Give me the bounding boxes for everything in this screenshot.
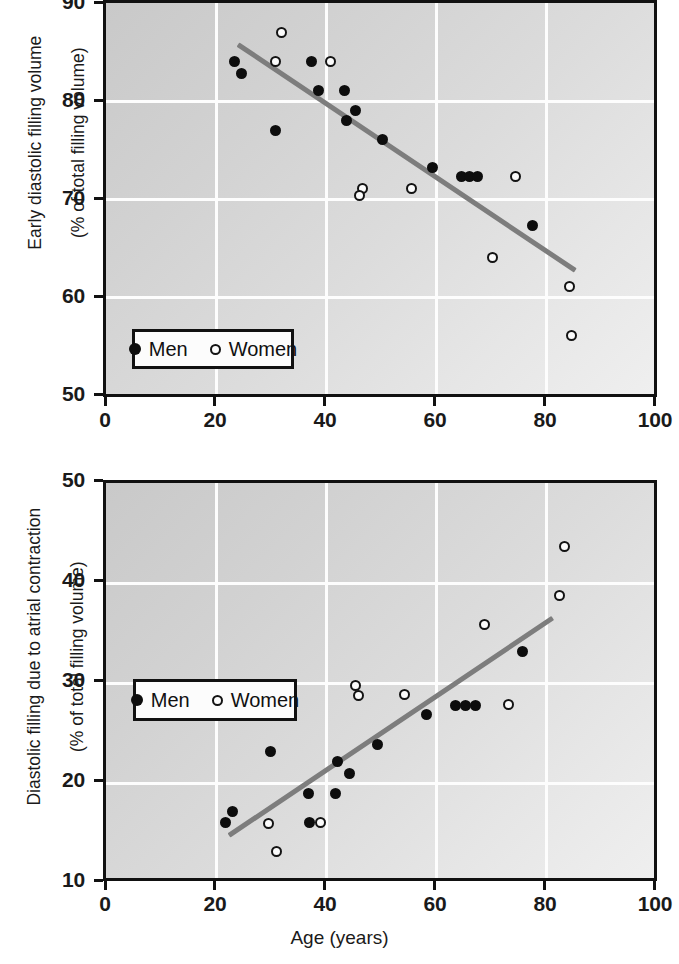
data-point-men — [330, 788, 341, 799]
x-tick-top-20 — [213, 397, 216, 406]
data-point-women — [554, 590, 565, 601]
data-point-men — [303, 788, 314, 799]
open-circle-icon — [212, 695, 223, 706]
data-point-men — [270, 125, 281, 136]
gridline-vertical-x40-bottom — [325, 483, 328, 878]
data-point-men — [332, 756, 343, 767]
y-tick-bottom-20 — [94, 779, 103, 782]
x-tick-top-100 — [653, 397, 656, 406]
data-point-men — [341, 115, 352, 126]
trendline-top — [236, 42, 576, 272]
plot-area-top: Men Women — [103, 0, 657, 397]
data-point-men — [306, 56, 317, 67]
y-tick-label-top-90: 90 — [51, 0, 85, 14]
data-point-women — [487, 252, 498, 263]
data-point-men — [265, 746, 276, 757]
y-axis-title-top: Early diastolic filling volume (% of tot… — [4, 13, 89, 273]
y-tick-top-60 — [94, 295, 103, 298]
data-point-women — [270, 56, 281, 67]
filled-circle-icon — [129, 343, 141, 355]
data-point-women — [564, 281, 575, 292]
legend-label-men-bottom: Men — [151, 689, 190, 712]
data-point-women — [503, 699, 514, 710]
data-point-men — [472, 171, 483, 182]
x-tick-top-60 — [433, 397, 436, 406]
data-point-women — [559, 541, 570, 552]
data-point-men — [313, 85, 324, 96]
y-tick-top-50 — [94, 393, 103, 396]
y-tick-label-bottom-40: 40 — [51, 568, 85, 592]
x-tick-label-top-40: 40 — [314, 408, 337, 432]
data-point-women — [399, 689, 410, 700]
x-tick-label-top-20: 20 — [204, 408, 227, 432]
data-point-men — [527, 220, 538, 231]
data-point-men — [229, 56, 240, 67]
y-tick-top-80 — [94, 99, 103, 102]
gridline-horizontal-y60-top — [106, 296, 654, 299]
legend-entry-women-bottom: Women — [212, 689, 300, 712]
data-point-men — [344, 768, 355, 779]
data-point-women — [325, 56, 336, 67]
x-tick-top-80 — [543, 397, 546, 406]
x-tick-top-40 — [323, 397, 326, 406]
gridline-horizontal-y40-bottom — [106, 582, 654, 585]
y-axis-title-top-line1: Early diastolic filling volume — [26, 36, 46, 250]
data-point-men — [517, 646, 528, 657]
data-point-men — [227, 806, 238, 817]
y-axis-title-bottom-line1: Diastolic filling due to atrial contract… — [25, 508, 45, 806]
x-tick-label-top-60: 60 — [424, 408, 447, 432]
data-point-women — [566, 330, 577, 341]
x-tick-label-top-80: 80 — [534, 408, 557, 432]
y-tick-label-top-60: 60 — [51, 284, 85, 308]
x-tick-label-bottom-100: 100 — [638, 892, 672, 916]
open-circle-icon — [210, 344, 221, 355]
y-tick-label-bottom-50: 50 — [51, 468, 85, 492]
gridline-horizontal-y20-bottom — [106, 782, 654, 785]
x-tick-top-0 — [104, 397, 107, 406]
data-point-men — [220, 817, 231, 828]
figure-scatter-pair: Early diastolic filling volume (% of tot… — [0, 0, 679, 964]
x-tick-label-top-100: 100 — [638, 408, 672, 432]
legend-entry-men-top: Men — [129, 338, 188, 361]
data-point-women — [479, 619, 490, 630]
panel-early-diastolic-filling: Early diastolic filling volume (% of tot… — [0, 0, 679, 452]
y-tick-bottom-10 — [94, 879, 103, 882]
x-tick-bottom-100 — [653, 881, 656, 890]
data-point-women — [276, 27, 287, 38]
x-axis-title-bottom: Age (years) — [0, 926, 679, 949]
data-point-men — [339, 85, 350, 96]
data-point-men — [372, 739, 383, 750]
x-tick-label-bottom-0: 0 — [99, 892, 110, 916]
gridline-horizontal-y70-top — [106, 198, 654, 201]
plot-area-bottom: Men Women — [103, 480, 657, 881]
legend-entry-men-bottom: Men — [131, 689, 190, 712]
y-tick-label-bottom-30: 30 — [51, 668, 85, 692]
data-point-women — [406, 183, 417, 194]
data-point-men — [350, 105, 361, 116]
legend-entry-women-top: Women — [210, 338, 298, 361]
data-point-men — [304, 817, 315, 828]
legend-label-women-top: Women — [229, 338, 298, 361]
data-point-men — [421, 709, 432, 720]
filled-circle-icon — [131, 694, 143, 706]
gridline-vertical-x80-bottom — [545, 483, 548, 878]
y-tick-top-70 — [94, 197, 103, 200]
data-point-women — [353, 690, 364, 701]
y-tick-top-90 — [94, 1, 103, 4]
x-tick-bottom-60 — [433, 881, 436, 890]
x-tick-label-top-0: 0 — [99, 408, 110, 432]
data-point-men — [470, 700, 481, 711]
legend-bottom: Men Women — [133, 679, 297, 721]
y-tick-bottom-50 — [94, 479, 103, 482]
x-tick-bottom-40 — [323, 881, 326, 890]
gridline-horizontal-y80-top — [106, 100, 654, 103]
x-tick-bottom-80 — [543, 881, 546, 890]
legend-top: Men Women — [132, 329, 294, 369]
y-tick-bottom-30 — [94, 679, 103, 682]
trendline-bottom — [228, 616, 554, 837]
data-point-women — [263, 818, 274, 829]
data-point-women — [271, 846, 282, 857]
y-tick-label-top-80: 80 — [51, 88, 85, 112]
legend-label-men-top: Men — [149, 338, 188, 361]
y-tick-label-top-70: 70 — [51, 186, 85, 210]
